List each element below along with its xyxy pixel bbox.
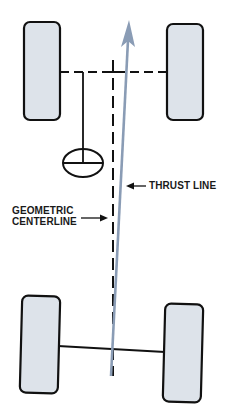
centerline-label-arrow-icon — [81, 215, 108, 222]
thrust-line-label: THRUST LINE — [149, 180, 216, 192]
thrust-label-arrow-icon — [126, 183, 146, 190]
rear-right-wheel — [163, 304, 204, 403]
steering-wheel-icon — [63, 149, 103, 177]
geometric-centerline-label-line2: CENTERLINE — [12, 216, 77, 228]
rear-left-wheel — [20, 296, 61, 394]
front-left-wheel — [24, 22, 60, 120]
front-right-wheel — [167, 24, 203, 120]
